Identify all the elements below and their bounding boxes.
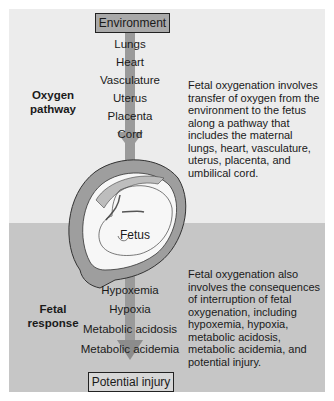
step-metabolic-acidemia: Metabolic acidemia (78, 342, 182, 356)
step-placenta: Placenta (80, 109, 180, 123)
oxygen-pathway-label: Oxygen pathway (18, 88, 88, 116)
fetal-response-label: Fetal response (18, 302, 88, 330)
step-hypoxia: Hypoxia (80, 302, 180, 316)
step-uterus: Uterus (80, 91, 180, 105)
step-cord: Cord (80, 127, 180, 141)
potential-injury-box: Potential injury (88, 372, 174, 392)
step-metabolic-acidosis: Metabolic acidosis (78, 322, 182, 336)
environment-box: Environment (95, 13, 170, 33)
fetal-response-label-line1: Fetal (18, 302, 88, 316)
step-heart: Heart (80, 55, 180, 69)
oxygen-pathway-description: Fetal oxygenation involves transfer of o… (188, 79, 324, 179)
uterus-fetus-illustration (60, 150, 190, 290)
fetus-label: Fetus (120, 228, 150, 242)
oxygen-pathway-label-line1: Oxygen (18, 88, 88, 102)
oxygen-pathway-label-line2: pathway (18, 102, 88, 116)
step-lungs: Lungs (80, 37, 180, 51)
fetal-response-description: Fetal oxygenation also involves the cons… (188, 268, 324, 368)
fetal-response-label-line2: response (18, 316, 88, 330)
step-hypoxemia: Hypoxemia (80, 283, 180, 297)
step-vasculature: Vasculature (80, 73, 180, 87)
